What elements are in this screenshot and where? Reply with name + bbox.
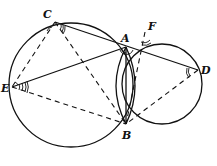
label-A: A <box>120 32 130 45</box>
label-E: E <box>0 82 10 95</box>
segment-DB <box>126 70 198 124</box>
label-C: C <box>43 8 52 21</box>
segment-EB <box>12 87 126 124</box>
label-F: F <box>147 20 157 33</box>
segment-EA <box>12 47 126 87</box>
geometry-diagram: C A F D E B <box>0 0 217 166</box>
label-B: B <box>121 129 131 142</box>
right-circle <box>122 44 202 124</box>
segment-CE <box>12 22 55 87</box>
label-D: D <box>200 64 211 77</box>
segment-FB <box>126 32 145 124</box>
angle-mark-E <box>15 81 28 93</box>
segment-CB <box>55 22 126 124</box>
